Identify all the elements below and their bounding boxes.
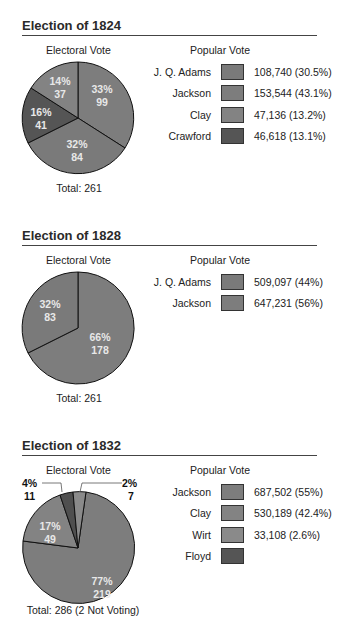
legend-row: J. Q. Adams 509,097 (44%)	[139, 273, 323, 291]
electoral-pie-chart: 32% 83 66% 178	[20, 270, 136, 386]
section-title: Election of 1832	[22, 438, 317, 456]
electoral-total: Total: 286 (2 Not Voting)	[18, 604, 148, 616]
electoral-pie-chart: 17% 49 77% 219 4% 11 2% 7	[4, 476, 154, 606]
svg-text:66%: 66%	[89, 331, 111, 343]
legend-swatch	[221, 64, 244, 80]
legend-row: Jackson 687,502 (55%)	[139, 483, 323, 501]
electoral-vote-label: Electoral Vote	[46, 254, 111, 266]
popular-vote-label: Popular Vote	[190, 44, 250, 56]
section-title: Election of 1828	[22, 228, 317, 246]
svg-text:83: 83	[44, 311, 56, 323]
legend-row: Jackson 153,544 (43.1%)	[139, 84, 332, 102]
svg-text:17%: 17%	[39, 520, 61, 532]
svg-text:37: 37	[54, 88, 66, 100]
legend-swatch	[221, 527, 244, 543]
election-1832: Election of 1832 Electoral Vote 17% 49 7…	[22, 438, 317, 628]
electoral-total: Total: 261	[26, 392, 132, 404]
legend-swatch	[221, 128, 244, 144]
electoral-pie-chart: 33% 99 32% 84 16% 41 14% 37	[20, 60, 136, 176]
svg-text:11: 11	[24, 490, 35, 502]
legend-row: Floyd	[139, 547, 254, 565]
legend-swatch	[221, 505, 244, 521]
legend-row: Crawford 46,618 (13.1%)	[139, 127, 326, 145]
legend-swatch	[221, 107, 244, 123]
electoral-total: Total: 261	[26, 182, 132, 194]
election-1828: Election of 1828 Electoral Vote 32% 83 6…	[22, 228, 317, 408]
svg-text:2%: 2%	[122, 477, 138, 489]
svg-text:99: 99	[96, 96, 108, 108]
svg-text:14%: 14%	[49, 75, 71, 87]
electoral-vote-label: Electoral Vote	[46, 44, 111, 56]
svg-text:77%: 77%	[91, 575, 113, 587]
slice-label: 33%	[91, 83, 113, 95]
svg-text:7: 7	[128, 490, 134, 502]
legend-row: Jackson 647,231 (56%)	[139, 294, 323, 312]
svg-text:219: 219	[93, 588, 111, 600]
popular-vote-label: Popular Vote	[190, 254, 250, 266]
svg-text:84: 84	[71, 151, 83, 163]
popular-vote-label: Popular Vote	[190, 464, 250, 476]
legend-row: J. Q. Adams 108,740 (30.5%)	[139, 63, 332, 81]
legend-swatch	[221, 548, 244, 564]
svg-text:4%: 4%	[22, 477, 38, 489]
svg-text:49: 49	[44, 533, 56, 545]
legend-row: Clay 47,136 (13.2%)	[139, 106, 326, 124]
election-1824: Election of 1824 Electoral Vote 33% 99 3…	[22, 18, 317, 198]
svg-text:41: 41	[35, 119, 47, 131]
svg-text:32%: 32%	[66, 138, 88, 150]
legend-row: Wirt 33,108 (2.6%)	[139, 526, 320, 544]
legend-swatch	[221, 484, 244, 500]
electoral-vote-label: Electoral Vote	[46, 464, 111, 476]
svg-text:16%: 16%	[30, 106, 52, 118]
legend-swatch	[221, 85, 244, 101]
svg-text:32%: 32%	[39, 298, 61, 310]
svg-text:178: 178	[91, 344, 109, 356]
section-title: Election of 1824	[22, 18, 317, 36]
legend-swatch	[221, 295, 244, 311]
legend-row: Clay 530,189 (42.4%)	[139, 504, 332, 522]
legend-swatch	[221, 274, 244, 290]
